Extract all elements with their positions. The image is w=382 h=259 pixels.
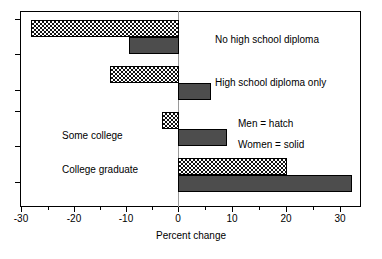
x-ticklabel--20: -20 [54, 213, 94, 225]
x-tick--10 [126, 207, 127, 212]
percent-change-bar-chart: No high school diploma High school diplo… [0, 0, 382, 259]
bar-women-no-hs [129, 37, 179, 54]
y-tick-1 [15, 54, 20, 55]
y-tick-0 [15, 19, 20, 20]
bar-men-college-grad [178, 158, 287, 175]
bar-women-college-grad [178, 175, 352, 192]
x-ticklabel--30: -30 [1, 213, 41, 225]
y-tick-3 [15, 111, 20, 112]
x-ticklabel-30: 30 [320, 213, 360, 225]
bar-women-hs-only [178, 83, 211, 100]
bar-men-hs-only [110, 66, 179, 83]
x-tick-minor--25 [48, 207, 49, 210]
y-tick-5 [15, 182, 20, 183]
x-tick-minor-15 [259, 207, 260, 210]
x-tick-minor-5 [205, 207, 206, 210]
x-tick-30 [340, 207, 341, 212]
category-label-college-grad: College graduate [62, 164, 138, 175]
category-label-some-college: Some college [62, 130, 123, 141]
x-ticklabel-20: 20 [266, 213, 306, 225]
x-ticklabel-0: 0 [158, 213, 198, 225]
legend-men: Men = hatch [238, 118, 293, 129]
legend-women: Women = solid [238, 139, 304, 150]
category-label-hs-only: High school diploma only [215, 77, 326, 88]
x-tick-10 [232, 207, 233, 212]
y-tick-2 [15, 90, 20, 91]
bar-women-some-college [178, 129, 227, 146]
category-label-no-hs: No high school diploma [215, 34, 319, 45]
x-tick-minor--15 [100, 207, 101, 210]
x-ticklabel--10: -10 [106, 213, 146, 225]
x-ticklabel-10: 10 [212, 213, 252, 225]
bar-men-no-hs [31, 20, 179, 37]
x-tick--20 [74, 207, 75, 212]
x-tick-minor--5 [152, 207, 153, 210]
x-axis-title: Percent change [0, 230, 382, 241]
bar-men-some-college [162, 112, 179, 129]
x-tick-0 [178, 207, 179, 212]
x-tick--30 [21, 207, 22, 212]
x-tick-20 [286, 207, 287, 212]
y-tick-4 [15, 146, 20, 147]
x-tick-minor-25 [313, 207, 314, 210]
